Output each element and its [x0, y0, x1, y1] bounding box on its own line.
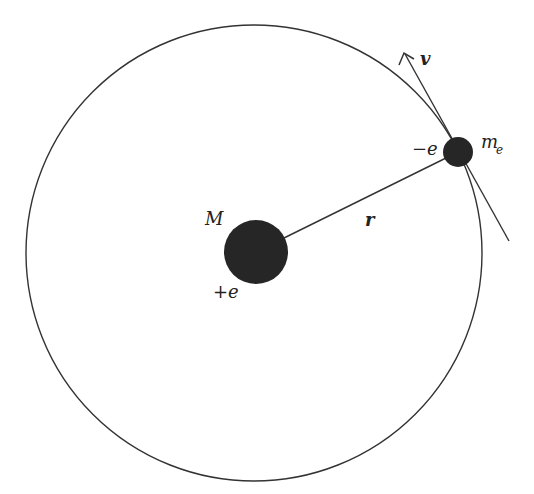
velocity-label: v	[420, 48, 431, 69]
electron	[443, 137, 473, 167]
nucleus-mass-label: M	[204, 208, 224, 229]
electron-mass-subscript: e	[496, 143, 503, 157]
nucleus	[224, 220, 288, 284]
electron-charge-label: −e	[412, 138, 438, 159]
radius-vector-label: r	[365, 209, 376, 230]
bohr-atom-diagram: M +e r −e m e v	[0, 0, 534, 494]
velocity-arrowhead-icon	[399, 53, 414, 65]
diagram-canvas: M +e r −e m e v	[0, 0, 534, 494]
nucleus-charge-label: +e	[213, 281, 239, 302]
